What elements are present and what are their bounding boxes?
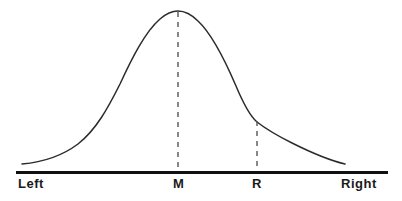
axis-label-left: Left [18,177,44,191]
bell-curve-svg [0,0,402,201]
axis-label-right: Right [341,177,377,191]
bell-curve-figure: Left M R Right [0,0,402,201]
normal-distribution-curve [22,11,345,164]
axis-label-r: R [252,177,262,191]
axis-label-mean: M [173,177,184,191]
